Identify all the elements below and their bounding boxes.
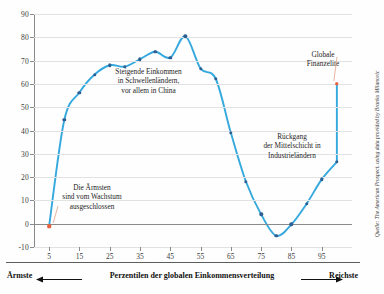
x-axis-tick — [140, 247, 141, 251]
source-note: Quelle: The American Prospect, using dat… — [374, 70, 380, 237]
highlight-point-marker — [335, 82, 339, 86]
y-axis-tick — [30, 200, 34, 201]
annotation-middleclass-line3: Industrieländern — [238, 151, 346, 160]
gridline — [34, 14, 352, 15]
highlight-point-marker — [47, 224, 51, 228]
y-axis-tick-label: 80 — [21, 33, 29, 42]
x-axis-tick-label: 65 — [227, 252, 235, 261]
y-axis-tick-label: 40 — [21, 126, 29, 135]
annotation-emerging-line1: Steigende Einkommen — [95, 67, 202, 76]
annotation-middleclass-line2: der Mittelschicht in — [238, 141, 346, 150]
y-axis-tick — [30, 14, 34, 15]
annotation-elite-line1: Globale — [292, 50, 354, 59]
y-axis-tick-label: 0 — [25, 219, 29, 228]
annotation-middleclass-decline: Rückgang der Mittelschicht in Industriel… — [238, 132, 346, 160]
y-axis-tick — [30, 107, 34, 108]
y-axis-tick — [30, 154, 34, 155]
annotation-emerging-line3: vor allem in China — [95, 86, 202, 95]
y-axis-tick — [30, 177, 34, 178]
x-axis-caption-bar: Ärmste Perzentilen der globalen Einkomme… — [0, 262, 384, 294]
y-axis-tick — [30, 61, 34, 62]
y-axis-tick — [30, 37, 34, 38]
gridline — [34, 107, 352, 108]
annotation-emerging-line2: in Schwellenländern, — [95, 76, 202, 85]
x-axis-tick — [79, 247, 80, 251]
x-axis-tick-label: 15 — [76, 252, 84, 261]
gridline — [34, 247, 352, 248]
zero-line — [34, 224, 352, 225]
y-axis-tick-label: 20 — [21, 173, 29, 182]
y-axis-tick-label: 10 — [21, 196, 29, 205]
annotation-poorest-line3: ausgeschlossen — [40, 202, 144, 211]
x-axis-tick-label: 95 — [318, 252, 326, 261]
y-axis-tick-label: 30 — [21, 149, 29, 158]
x-axis-tick-label: 75 — [257, 252, 265, 261]
annotation-poorest: Die Ärmsten sind vom Wachstum ausgeschlo… — [40, 183, 144, 211]
y-axis-tick-label: -10 — [18, 243, 29, 252]
x-axis-tick-label: 5 — [47, 252, 51, 261]
y-axis-tick — [30, 247, 34, 248]
x-axis-tick-label: 25 — [106, 252, 114, 261]
annotation-poorest-line1: Die Ärmsten — [40, 183, 144, 192]
x-axis-tick — [322, 247, 323, 251]
x-axis-tick — [170, 247, 171, 251]
y-axis-tick-label: 70 — [21, 56, 29, 65]
annotation-elite-line2: Finanzelite — [292, 59, 354, 68]
gridline — [34, 37, 352, 38]
x-axis-tick — [201, 247, 202, 251]
elephant-curve-chart: -100102030405060708090515253545556575859… — [0, 0, 384, 294]
x-axis-tick — [49, 247, 50, 251]
x-axis-tick-label: 85 — [288, 252, 296, 261]
x-axis-tick-label: 55 — [197, 252, 205, 261]
x-axis-tick — [110, 247, 111, 251]
plot-area: -100102030405060708090515253545556575859… — [34, 14, 352, 247]
annotation-poorest-line2: sind vom Wachstum — [40, 192, 144, 201]
y-axis-tick-label: 50 — [21, 103, 29, 112]
y-axis-tick — [30, 224, 34, 225]
x-axis-tick — [261, 247, 262, 251]
y-axis-tick — [30, 131, 34, 132]
annotation-emerging-markets: Steigende Einkommen in Schwellenländern,… — [95, 67, 202, 95]
annotation-global-elite: Globale Finanzelite — [292, 50, 354, 69]
source-note-wrapper: Quelle: The American Prospect, using dat… — [372, 46, 382, 261]
y-axis-tick — [30, 84, 34, 85]
axis-arrows — [0, 262, 384, 294]
x-axis-tick-label: 45 — [167, 252, 175, 261]
gridline — [34, 177, 352, 178]
x-axis-tick — [291, 247, 292, 251]
x-axis-tick-label: 35 — [136, 252, 144, 261]
y-axis-tick-label: 90 — [21, 10, 29, 19]
y-axis-tick-label: 60 — [21, 79, 29, 88]
annotation-middleclass-line1: Rückgang — [238, 132, 346, 141]
x-axis-tick — [231, 247, 232, 251]
